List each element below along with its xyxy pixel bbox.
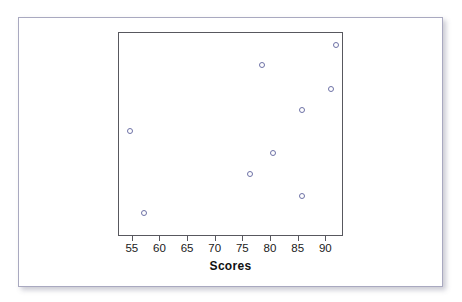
x-tick-mark bbox=[215, 236, 216, 241]
data-point bbox=[270, 150, 276, 156]
x-tick-label: 70 bbox=[208, 242, 221, 254]
x-tick-mark bbox=[242, 236, 243, 241]
x-tick-mark bbox=[132, 236, 133, 241]
figure-card: 5560657075808590 Scores bbox=[18, 17, 443, 287]
x-tick-label: 60 bbox=[153, 242, 166, 254]
x-tick-label: 65 bbox=[181, 242, 194, 254]
x-axis-tick-group: 5560657075808590 bbox=[118, 236, 343, 241]
data-point bbox=[299, 193, 305, 199]
x-tick-mark bbox=[187, 236, 188, 241]
x-tick-label: 55 bbox=[125, 242, 138, 254]
x-tick-label: 85 bbox=[291, 242, 304, 254]
data-point bbox=[127, 128, 133, 134]
data-point bbox=[247, 171, 253, 177]
data-point bbox=[328, 86, 334, 92]
data-point bbox=[333, 42, 339, 48]
x-tick-mark bbox=[270, 236, 271, 241]
x-tick-label: 90 bbox=[319, 242, 332, 254]
plot-frame-border bbox=[118, 32, 343, 236]
data-point bbox=[259, 62, 265, 68]
data-point bbox=[141, 210, 147, 216]
x-tick-mark bbox=[298, 236, 299, 241]
x-axis-title: Scores bbox=[118, 259, 343, 273]
x-tick-mark bbox=[159, 236, 160, 241]
x-tick-mark bbox=[325, 236, 326, 241]
x-tick-label: 80 bbox=[264, 242, 277, 254]
x-tick-label: 75 bbox=[236, 242, 249, 254]
scatter-plot-area bbox=[118, 32, 343, 236]
data-point bbox=[299, 107, 305, 113]
